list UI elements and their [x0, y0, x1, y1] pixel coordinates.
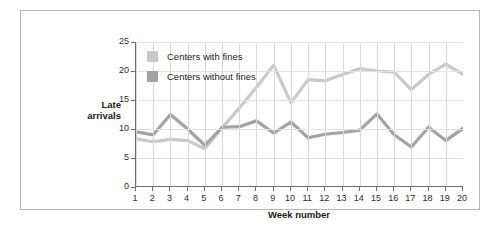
x-axis-tick-mark [393, 187, 394, 191]
y-axis-tick-label: 15 [105, 94, 129, 104]
x-axis-tick-label: 4 [178, 193, 196, 203]
grid-line-vertical [394, 42, 395, 186]
grid-line-vertical [360, 42, 361, 186]
y-axis-tick-label: 0 [105, 181, 129, 191]
x-axis-tick-mark [169, 187, 170, 191]
grid-line-vertical [325, 42, 326, 186]
y-axis-tick-label: 25 [105, 36, 129, 46]
x-axis-tick-label: 1 [126, 193, 144, 203]
chart-figure-frame: Late arrivals 0510152025 123456789101112… [20, 10, 480, 210]
grid-line-horizontal [136, 158, 463, 159]
grid-line-horizontal [136, 100, 463, 101]
x-axis-tick-label: 17 [401, 193, 419, 203]
x-axis-tick-mark [410, 187, 411, 191]
x-axis-tick-label: 6 [212, 193, 230, 203]
legend-item: Centers with fines [147, 48, 256, 65]
x-axis-tick-label: 18 [419, 193, 437, 203]
x-axis-tick-mark [273, 187, 274, 191]
x-axis-tick-mark [462, 187, 463, 191]
x-axis-tick-mark [324, 187, 325, 191]
y-axis-tick-label: 20 [105, 65, 129, 75]
legend-swatch-icon [147, 71, 158, 82]
x-axis-tick-mark [221, 187, 222, 191]
x-axis-tick-mark [255, 187, 256, 191]
x-axis-tick-mark [204, 187, 205, 191]
grid-line-vertical [274, 42, 275, 186]
x-axis-tick-label: 10 [281, 193, 299, 203]
x-axis-tick-mark [307, 187, 308, 191]
x-axis-tick-label: 11 [298, 193, 316, 203]
x-axis-tick-mark [445, 187, 446, 191]
grid-line-vertical [308, 42, 309, 186]
x-axis-tick-mark [376, 187, 377, 191]
x-axis-tick-label: 12 [315, 193, 333, 203]
x-axis-tick-mark [342, 187, 343, 191]
x-axis-tick-label: 5 [195, 193, 213, 203]
y-axis-title-line-2: arrivals [87, 110, 121, 121]
x-axis-title: Week number [135, 209, 463, 220]
x-axis-tick-label: 20 [453, 193, 471, 203]
x-axis-tick-mark [428, 187, 429, 191]
x-axis-tick-label: 9 [264, 193, 282, 203]
grid-line-vertical [291, 42, 292, 186]
chart-legend: Centers with finesCenters without fines [147, 48, 256, 88]
grid-line-vertical [136, 42, 137, 186]
x-axis-tick-label: 16 [384, 193, 402, 203]
x-axis-tick-label: 3 [160, 193, 178, 203]
x-axis-tick-label: 19 [436, 193, 454, 203]
grid-line-vertical [429, 42, 430, 186]
x-axis-tick-mark [152, 187, 153, 191]
legend-item-label: Centers with fines [167, 51, 243, 62]
y-axis-tick-label: 5 [105, 152, 129, 162]
grid-line-vertical [343, 42, 344, 186]
legend-item-label: Centers without fines [167, 71, 256, 82]
x-axis-tick-label: 7 [229, 193, 247, 203]
x-axis-tick-mark [135, 187, 136, 191]
x-axis-tick-mark [290, 187, 291, 191]
x-axis-tick-mark [238, 187, 239, 191]
grid-line-vertical [256, 42, 257, 186]
grid-line-vertical [377, 42, 378, 186]
grid-line-vertical [446, 42, 447, 186]
legend-item: Centers without fines [147, 68, 256, 85]
x-axis-tick-mark [187, 187, 188, 191]
grid-line-horizontal [136, 42, 463, 43]
grid-line-vertical [411, 42, 412, 186]
x-axis-tick-label: 13 [333, 193, 351, 203]
x-axis-tick-label: 15 [367, 193, 385, 203]
x-axis-tick-label: 8 [246, 193, 264, 203]
legend-swatch-icon [147, 51, 158, 62]
grid-line-horizontal [136, 129, 463, 130]
x-axis-tick-mark [359, 187, 360, 191]
x-axis-tick-label: 2 [143, 193, 161, 203]
x-axis-tick-label: 14 [350, 193, 368, 203]
y-axis-tick-label: 10 [105, 123, 129, 133]
